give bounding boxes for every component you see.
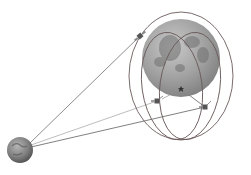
moon bbox=[142, 19, 220, 97]
relay-satellite-top-icon bbox=[133, 30, 147, 43]
earth bbox=[7, 137, 33, 163]
link-earth-to-left-satellite bbox=[31, 101, 157, 145]
earth-disc bbox=[7, 137, 33, 163]
link-earth-to-right-satellite bbox=[31, 107, 205, 147]
link-earth-to-top-satellite bbox=[30, 36, 140, 143]
diagram-canvas bbox=[0, 0, 251, 175]
earth-moon-relay-diagram bbox=[0, 0, 251, 175]
